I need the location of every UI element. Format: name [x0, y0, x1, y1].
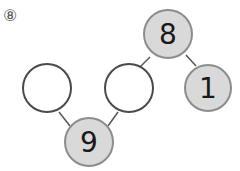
node-bottom-value: 9: [80, 126, 98, 159]
node-left-empty[interactable]: [23, 64, 71, 112]
connector-top-right: [186, 55, 196, 66]
node-right-value: 1: [199, 72, 217, 105]
node-middle-empty[interactable]: [105, 64, 153, 112]
connector-top-middle: [140, 57, 150, 67]
node-top: 8: [144, 10, 192, 58]
connector-left-bottom: [59, 112, 70, 126]
node-right: 1: [185, 65, 231, 111]
node-bottom: 9: [65, 118, 113, 166]
node-top-value: 8: [159, 18, 177, 51]
connector-middle-bottom: [108, 112, 118, 126]
number-bond-diagram: 8 1 9: [0, 0, 240, 171]
